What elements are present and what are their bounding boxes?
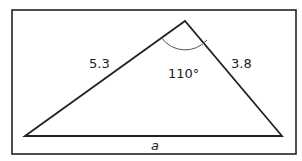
side-right-label: 3.8 (231, 56, 252, 71)
triangle-diagram: 5.3 110° 3.8 a (0, 0, 302, 161)
side-left-label: 5.3 (89, 56, 110, 71)
base-label: a (151, 138, 159, 153)
angle-label: 110° (168, 66, 199, 81)
frame-border (12, 10, 296, 154)
triangle-shape (25, 21, 282, 136)
